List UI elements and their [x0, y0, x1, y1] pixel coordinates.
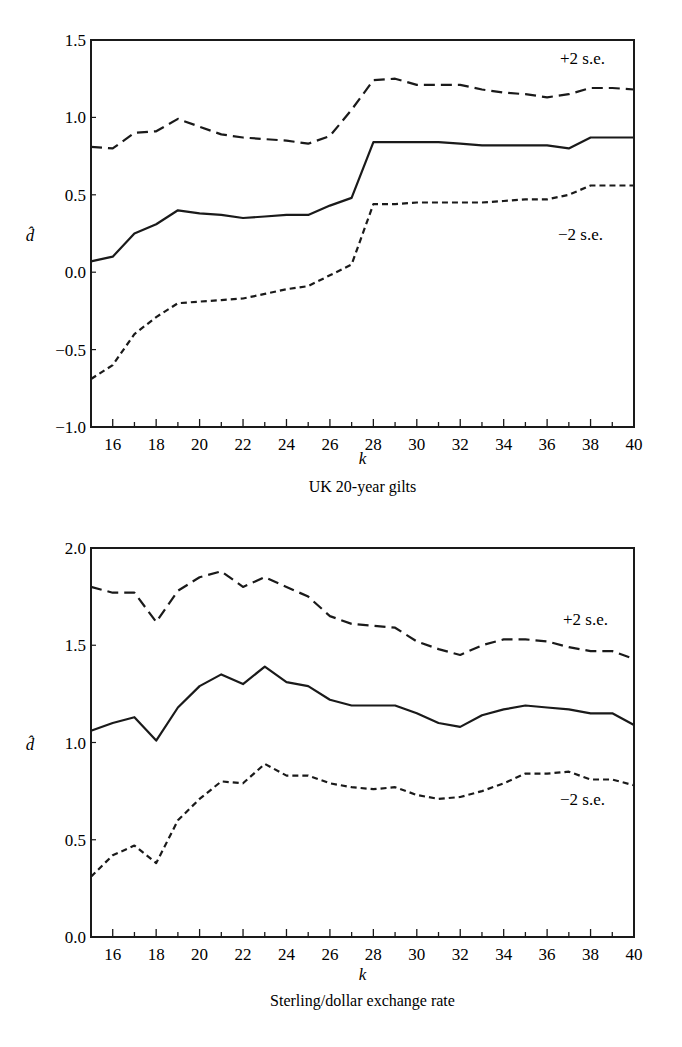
x-tick-label: 34: [495, 945, 513, 964]
upper-band-label: +2 s.e.: [560, 49, 605, 68]
x-tick-label: 20: [191, 435, 208, 454]
x-tick-label: 16: [104, 435, 121, 454]
x-tick-label: 38: [582, 945, 599, 964]
y-axis-label: d̂: [26, 735, 35, 754]
y-tick-label: 1.5: [65, 31, 86, 50]
x-tick-label: 30: [408, 435, 425, 454]
y-tick-label: 0.0: [65, 928, 86, 947]
x-tick-label: 28: [365, 435, 382, 454]
x-tick-label: 36: [539, 435, 556, 454]
x-tick-label: 32: [452, 945, 469, 964]
x-tick-label: 28: [365, 945, 382, 964]
x-tick-label: 30: [408, 945, 425, 964]
x-tick-label: 24: [278, 435, 296, 454]
x-tick-label: 40: [626, 435, 643, 454]
plot-frame: [91, 548, 634, 937]
x-tick-label: 22: [235, 945, 252, 964]
y-tick-label: 1.0: [65, 108, 86, 127]
y-tick-label: −1.0: [55, 418, 86, 437]
y-tick-label: 0.0: [65, 263, 86, 282]
x-tick-label: 24: [278, 945, 296, 964]
series-line-dashed: [91, 571, 634, 659]
series-line-solid: [91, 138, 634, 262]
y-tick-label: 2.0: [65, 539, 86, 558]
y-axis-label: d̂: [26, 226, 35, 245]
series-line-dashed: [91, 79, 634, 149]
x-tick-label: 26: [321, 945, 338, 964]
x-tick-label: 38: [582, 435, 599, 454]
y-tick-label: 0.5: [65, 831, 86, 850]
x-tick-label: 36: [539, 945, 556, 964]
x-tick-label: 16: [104, 945, 121, 964]
x-tick-label: 20: [191, 945, 208, 964]
y-tick-label: 1.0: [65, 734, 86, 753]
upper-band-label: +2 s.e.: [563, 610, 608, 629]
chart-caption: UK 20-year gilts: [309, 478, 417, 496]
chart-panel-uk-gilts: 161820222426283032343638401.51.00.50.0−0…: [26, 31, 643, 496]
y-tick-label: 0.5: [65, 186, 86, 205]
x-tick-label: 18: [148, 945, 165, 964]
x-axis-label: k: [359, 965, 367, 984]
chart-figure: 161820222426283032343638401.51.00.50.0−0…: [0, 0, 682, 1047]
x-tick-label: 18: [148, 435, 165, 454]
series-line-solid: [91, 667, 634, 741]
x-tick-label: 40: [626, 945, 643, 964]
chart-caption: Sterling/dollar exchange rate: [270, 992, 455, 1010]
chart-panel-sterling-dollar: 161820222426283032343638402.01.51.00.50.…: [26, 539, 643, 1010]
x-tick-label: 22: [235, 435, 252, 454]
x-tick-label: 32: [452, 435, 469, 454]
series-line-dotted: [91, 764, 634, 877]
x-tick-label: 34: [495, 435, 513, 454]
x-tick-label: 26: [321, 435, 338, 454]
y-tick-label: 1.5: [65, 636, 86, 655]
lower-band-label: −2 s.e.: [560, 790, 605, 809]
x-axis-label: k: [359, 449, 367, 468]
y-tick-label: −0.5: [55, 341, 86, 360]
lower-band-label: −2 s.e.: [558, 225, 603, 244]
